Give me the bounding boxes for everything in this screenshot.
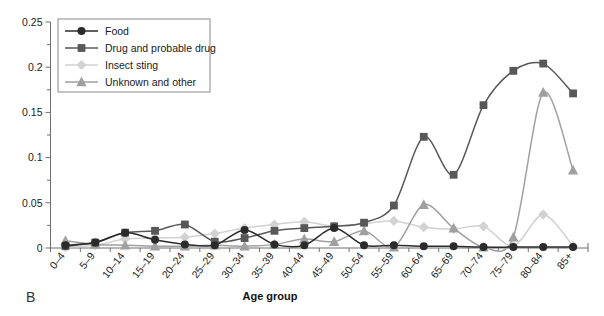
x-axis-tick-label: 30–34	[219, 250, 247, 281]
y-axis-tick-label: 0.25	[22, 16, 43, 28]
x-axis-tick-label: 80–84	[517, 250, 545, 281]
data-point-circle	[300, 241, 308, 249]
data-point-circle	[91, 239, 99, 247]
x-axis-tick-label: 70–74	[458, 250, 486, 281]
y-axis-tick-label: 0	[37, 242, 43, 254]
x-axis-tick-label: 20–24	[159, 250, 187, 281]
data-point-square	[360, 219, 368, 227]
data-point-circle	[450, 242, 458, 250]
x-axis-tick-label: 40–44	[278, 250, 306, 281]
data-point-square	[390, 202, 398, 210]
x-axis-tick-label: 10–14	[99, 250, 127, 281]
legend-label: Drug and probable drug	[105, 42, 216, 54]
x-axis-tick-label-text: 40–44	[278, 250, 306, 281]
legend: FoodDrug and probable drugInsect stingUn…	[58, 19, 216, 92]
panel-label: B	[26, 289, 35, 305]
data-point-circle	[241, 226, 249, 234]
legend-label: Insect sting	[105, 59, 158, 71]
x-axis-tick-label-text: 30–34	[219, 250, 247, 281]
x-axis-tick-label-text: 35–39	[249, 250, 277, 281]
x-axis-tick-label-text: 55–59	[368, 250, 396, 281]
data-point-square	[300, 224, 308, 232]
x-axis-tick-label-text: 60–64	[398, 250, 426, 281]
x-axis-tick-label: 35–39	[249, 250, 277, 281]
data-point-square	[420, 133, 428, 141]
x-axis-tick-label: 50–54	[338, 250, 366, 281]
data-point-circle	[509, 243, 517, 251]
y-axis-tick-label: 0.1	[28, 151, 43, 163]
chart-figure: 00.050.10.150.20.250–45–910–1415–1920–24…	[0, 0, 604, 316]
x-axis-tick-label-text: 50–54	[338, 250, 366, 281]
data-point-circle	[390, 241, 398, 249]
data-point-square	[181, 221, 189, 229]
data-point-circle	[181, 240, 189, 248]
data-point-circle	[539, 243, 547, 251]
x-axis-tick-label-text: 15–19	[129, 250, 157, 281]
data-point-circle	[569, 243, 577, 251]
data-point-circle	[121, 229, 129, 237]
x-axis-tick-label: 0–4	[47, 250, 67, 271]
data-point-triangle	[359, 225, 369, 235]
data-point-circle	[420, 242, 428, 250]
x-axis-tick-label: 15–19	[129, 250, 157, 281]
legend-marker-circle	[78, 27, 86, 35]
data-point-square	[509, 67, 517, 75]
data-point-circle	[270, 240, 278, 248]
data-point-square	[241, 234, 249, 242]
data-point-diamond	[478, 221, 488, 231]
x-axis-tick-label-text: 10–14	[99, 250, 127, 281]
data-point-square	[539, 60, 547, 68]
data-point-circle	[360, 241, 368, 249]
data-point-circle	[61, 241, 69, 249]
data-point-square	[450, 171, 458, 179]
data-point-diamond	[419, 222, 429, 232]
x-axis-tick-label-text: 20–24	[159, 250, 187, 281]
chart-svg: 00.050.10.150.20.250–45–910–1415–1920–24…	[0, 0, 604, 316]
x-axis-tick-label-text: 65–69	[428, 250, 456, 281]
x-axis-tick-label: 75–79	[487, 250, 515, 281]
x-axis-tick-label-text: 0–4	[47, 250, 67, 271]
data-point-diamond	[210, 228, 220, 238]
x-axis-tick-label: 5–9	[77, 250, 97, 271]
data-point-square	[151, 227, 159, 235]
x-axis-tick-label-text: 85+	[554, 250, 574, 271]
data-point-square	[480, 101, 488, 109]
legend-label: Food	[105, 25, 129, 37]
data-point-circle	[330, 224, 338, 232]
x-axis-tick-label: 55–59	[368, 250, 396, 281]
x-axis-tick-label: 45–49	[308, 250, 336, 281]
x-axis-tick-label-text: 75–79	[487, 250, 515, 281]
x-axis-tick-label: 25–29	[189, 250, 217, 281]
legend-marker-square	[78, 44, 86, 52]
y-axis-tick-label: 0.05	[22, 197, 43, 209]
data-point-diamond	[389, 216, 399, 226]
legend-label: Unknown and other	[105, 76, 197, 88]
x-axis-title: Age group	[243, 290, 298, 302]
x-axis-tick-label-text: 5–9	[77, 250, 97, 271]
y-axis-tick-label: 0.2	[28, 61, 43, 73]
data-point-circle	[211, 241, 219, 249]
x-axis-tick-label: 85+	[554, 250, 574, 271]
data-point-square	[569, 90, 577, 98]
data-point-circle	[151, 236, 159, 244]
x-axis-tick-label: 60–64	[398, 250, 426, 281]
data-point-triangle	[508, 232, 518, 242]
x-axis-tick-label-text: 70–74	[458, 250, 486, 281]
y-axis-tick-label: 0.15	[22, 106, 43, 118]
x-axis-tick-label: 65–69	[428, 250, 456, 281]
data-point-square	[271, 227, 279, 235]
x-axis-tick-label-text: 80–84	[517, 250, 545, 281]
data-point-triangle	[568, 165, 578, 175]
data-point-diamond	[538, 209, 548, 219]
data-point-circle	[479, 243, 487, 251]
x-axis-tick-label-text: 25–29	[189, 250, 217, 281]
x-axis-tick-label-text: 45–49	[308, 250, 336, 281]
